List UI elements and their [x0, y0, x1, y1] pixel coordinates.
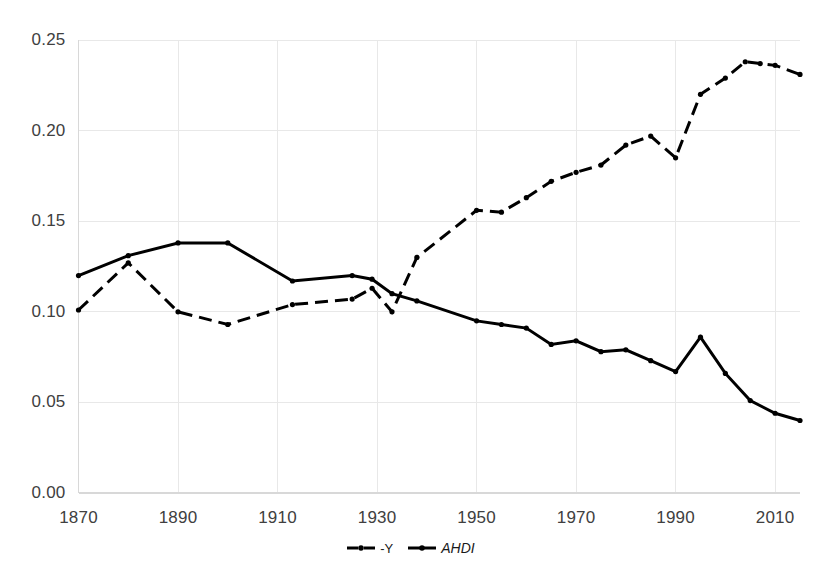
data-point-marker [623, 143, 628, 148]
data-point-marker [499, 210, 504, 215]
data-point-marker [698, 92, 703, 97]
data-point-marker [797, 418, 802, 423]
data-point-marker [369, 286, 374, 291]
data-point-marker [698, 335, 703, 340]
data-point-marker [389, 309, 394, 314]
solid-line-icon [407, 542, 437, 554]
chart-legend: -YAHDI [0, 541, 821, 555]
data-point-marker [369, 277, 374, 282]
chart-plot-area [0, 0, 821, 571]
data-point-marker [225, 240, 230, 245]
y-axis-tick-label: 0.10 [32, 303, 66, 320]
data-point-marker [797, 72, 802, 77]
data-point-marker [225, 322, 230, 327]
data-point-marker [350, 297, 355, 302]
data-point-marker [414, 298, 419, 303]
x-axis-tick-label: 1950 [427, 509, 527, 526]
data-point-marker [175, 309, 180, 314]
x-axis-tick-label: 1970 [526, 509, 626, 526]
data-point-marker [773, 63, 778, 68]
data-point-marker [126, 260, 131, 265]
data-point-marker [414, 255, 419, 260]
data-point-marker [290, 278, 295, 283]
data-point-marker [598, 162, 603, 167]
dashed-line-icon [346, 542, 376, 554]
data-point-marker [350, 273, 355, 278]
data-series-group [76, 59, 803, 423]
y-axis-tick-label: 0.15 [32, 212, 66, 229]
data-point-marker [723, 75, 728, 80]
data-point-marker [673, 155, 678, 160]
x-axis-tick-label: 1890 [128, 509, 228, 526]
legend-label: -Y [380, 542, 393, 555]
data-point-marker [573, 338, 578, 343]
data-point-marker [673, 369, 678, 374]
x-axis-tick-label: 1990 [626, 509, 726, 526]
series-line-y [79, 62, 801, 325]
data-point-marker [623, 347, 628, 352]
data-point-marker [474, 318, 479, 323]
y-axis-tick-label: 0.20 [32, 122, 66, 139]
data-point-marker [389, 291, 394, 296]
data-point-marker [76, 307, 81, 312]
data-point-marker [549, 179, 554, 184]
data-point-marker [648, 358, 653, 363]
data-point-marker [748, 398, 753, 403]
series-line-ahdi [79, 243, 801, 421]
x-axis-tick-label: 1870 [29, 509, 129, 526]
data-point-marker [126, 253, 131, 258]
y-axis-tick-label: 0.00 [32, 484, 66, 501]
data-point-marker [524, 195, 529, 200]
data-point-marker [573, 170, 578, 175]
x-axis-tick-label: 2010 [725, 509, 821, 526]
data-point-marker [549, 342, 554, 347]
data-point-marker [290, 302, 295, 307]
y-axis-tick-label: 0.05 [32, 393, 66, 410]
data-point-marker [474, 208, 479, 213]
y-axis-tick-label: 0.25 [32, 31, 66, 48]
data-point-marker [723, 371, 728, 376]
data-point-marker [648, 133, 653, 138]
data-point-marker [499, 322, 504, 327]
axis-lines-group [79, 40, 801, 493]
gridlines-group [79, 40, 801, 493]
x-axis-tick-label: 1910 [228, 509, 328, 526]
legend-item-y[interactable]: -Y [346, 542, 393, 555]
chart-figure: 0.000.050.100.150.200.25 187018901910193… [0, 0, 821, 571]
data-point-marker [758, 61, 763, 66]
x-axis-tick-label: 1930 [327, 509, 427, 526]
legend-item-ahdi[interactable]: AHDI [407, 541, 474, 555]
data-point-marker [76, 273, 81, 278]
data-point-marker [524, 326, 529, 331]
data-point-marker [598, 349, 603, 354]
data-point-marker [773, 411, 778, 416]
data-point-marker [175, 240, 180, 245]
data-point-marker [743, 59, 748, 64]
legend-label: AHDI [441, 541, 474, 555]
